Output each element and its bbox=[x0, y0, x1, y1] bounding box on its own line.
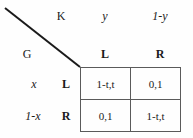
payoff-matrix-table: 1-t,t 0,1 0,1 1-t,t bbox=[80, 67, 181, 132]
payoff-cell-RR: 1-t,t bbox=[131, 100, 181, 132]
column-player-label: K bbox=[52, 10, 70, 22]
row-probability-x: x bbox=[25, 78, 43, 90]
payoff-cell-LR: 0,1 bbox=[131, 68, 181, 100]
payoff-matrix-figure: K y 1-y G L R x 1-x L R 1-t,t 0,1 0,1 1-… bbox=[0, 0, 193, 138]
row-player-label: G bbox=[18, 48, 36, 60]
column-action-header-L: L bbox=[96, 48, 114, 60]
column-action-header-R: R bbox=[151, 48, 169, 60]
table-row: 1-t,t 0,1 bbox=[81, 68, 181, 100]
row-action-header-L: L bbox=[57, 78, 75, 90]
column-probability-1-minus-y: 1-y bbox=[145, 10, 175, 22]
row-probability-1-minus-x: 1-x bbox=[18, 110, 48, 122]
payoff-cell-LL: 1-t,t bbox=[81, 68, 131, 100]
payoff-cell-RL: 0,1 bbox=[81, 100, 131, 132]
row-action-header-R: R bbox=[57, 110, 75, 122]
column-probability-y: y bbox=[96, 10, 114, 22]
table-row: 0,1 1-t,t bbox=[81, 100, 181, 132]
